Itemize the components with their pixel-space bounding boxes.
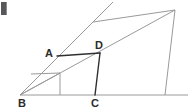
vertex-label-d: D	[95, 40, 103, 51]
inner-horizontal	[31, 73, 60, 74]
vertex-label-c: C	[91, 98, 99, 109]
vertex-label-b: B	[18, 98, 26, 109]
bold-lines-group	[57, 53, 100, 95]
geometry-figure: A D B C	[0, 0, 188, 112]
vertex-label-a: A	[45, 48, 53, 59]
top-edge	[93, 10, 175, 22]
geometry-canvas	[0, 0, 188, 112]
segment-dc	[95, 53, 100, 95]
inner-chord-from-b	[20, 73, 60, 95]
right-side	[165, 10, 175, 95]
